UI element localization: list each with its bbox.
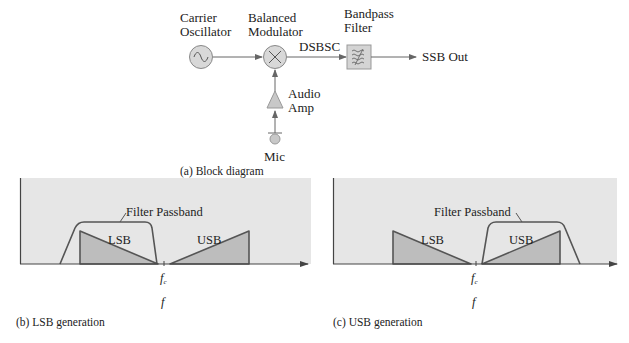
balanced-modulator-label-line1: Balanced: [248, 10, 297, 25]
audio-amp-block: Audio Amp: [267, 86, 321, 115]
ssb-out-label: SSB Out: [422, 49, 468, 64]
bandpass-filter-block: Bandpass Filter: [344, 6, 394, 69]
filter-passband-label: Filter Passband: [434, 205, 511, 219]
lsb-label: LSB: [421, 233, 444, 247]
carrier-frequency-label: fc: [160, 271, 167, 286]
audio-amp-label-line1: Audio: [288, 86, 321, 101]
lsb-generation-panel: Filter Passband LSB USB fc f (b) LSB gen…: [16, 178, 311, 329]
block-diagram-caption: (a) Block diagram: [180, 165, 264, 178]
balanced-modulator-block: Balanced Modulator: [248, 10, 304, 69]
spectrum-background: [20, 178, 311, 264]
usb-label: USB: [197, 233, 221, 247]
bandpass-filter-label-line2: Filter: [344, 20, 373, 35]
microphone-icon: [270, 134, 280, 144]
amplifier-triangle-icon: [267, 91, 283, 108]
frequency-axis-label: f: [472, 295, 477, 309]
lsb-generation-caption: (b) LSB generation: [16, 316, 105, 329]
carrier-oscillator-label-line2: Oscillator: [180, 24, 232, 39]
dsbsc-label: DSBSC: [299, 39, 340, 54]
usb-generation-panel: Filter Passband LSB USB fc f (c) USB gen…: [333, 178, 617, 329]
frequency-axis-label: f: [161, 295, 166, 309]
audio-amp-label-line2: Amp: [288, 100, 314, 115]
lsb-label: LSB: [108, 233, 131, 247]
filter-passband-label: Filter Passband: [126, 205, 203, 219]
mic-block: Mic: [264, 133, 285, 164]
balanced-modulator-label-line2: Modulator: [248, 24, 304, 39]
mic-label: Mic: [264, 149, 285, 164]
bandpass-filter-label-line1: Bandpass: [344, 6, 394, 21]
usb-label: USB: [509, 233, 533, 247]
carrier-oscillator-block: Carrier Oscillator: [180, 10, 232, 69]
carrier-frequency-label: fc: [471, 271, 478, 286]
ssb-generation-figure: Carrier Oscillator Balanced Modulator DS…: [0, 0, 629, 343]
block-diagram: Carrier Oscillator Balanced Modulator DS…: [180, 6, 468, 178]
usb-generation-caption: (c) USB generation: [333, 316, 423, 329]
carrier-oscillator-label-line1: Carrier: [180, 10, 217, 25]
